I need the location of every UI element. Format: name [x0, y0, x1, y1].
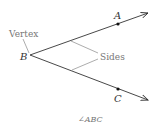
caption: ∠ABC: [78, 115, 103, 124]
point-a: [116, 22, 119, 25]
lower-ray: [30, 55, 148, 100]
sides-callout-label: Sides: [100, 52, 125, 62]
point-c: [116, 87, 119, 90]
angle-diagram: A B C Vertex Sides ∠ABC: [0, 0, 158, 130]
label-c: C: [114, 93, 122, 104]
sides-callout-line-upper: [71, 41, 98, 53]
vertex-callout-label: Vertex: [8, 29, 38, 39]
label-b: B: [19, 51, 27, 62]
sides-callout-line-lower: [72, 59, 98, 70]
label-a: A: [113, 10, 121, 21]
